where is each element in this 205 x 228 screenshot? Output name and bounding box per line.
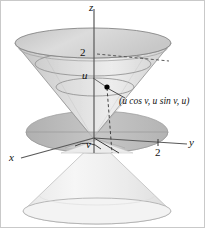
upper-cone-top-ellipse [15,28,171,58]
figure-canvas [1,1,205,228]
point-coordinates-label: (u cos v, u sin v, u) [119,97,189,107]
parametrized-point-dot [104,84,109,89]
x-axis-label: x [9,152,14,163]
lower-cone-base-ellipse [23,198,171,224]
u-parameter-label: u [82,70,88,81]
v-parameter-label: v [86,139,91,150]
z-tick-label-2: 2 [80,47,86,58]
y-axis-label: y [189,137,194,148]
z-axis-label: z [89,2,93,13]
cone-parametrization-figure: z y x 2 2 u v (u cos v, u sin v, u) [0,0,205,228]
y-tick-label-2: 2 [155,147,161,158]
